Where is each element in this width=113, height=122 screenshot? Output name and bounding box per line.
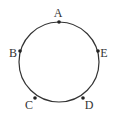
point-B-label: B (9, 46, 17, 60)
circle-diagram: A B C D E (0, 0, 113, 122)
point-E-dot (96, 49, 100, 53)
point-C-dot (33, 96, 37, 100)
point-C: C (25, 96, 37, 112)
point-A-label: A (54, 6, 63, 20)
point-C-label: C (25, 98, 33, 112)
point-D: D (81, 96, 93, 112)
point-A-dot (57, 20, 61, 24)
point-A: A (54, 6, 63, 24)
point-D-label: D (85, 98, 94, 112)
point-B-dot (18, 49, 22, 53)
point-E-label: E (100, 46, 107, 60)
circle (19, 22, 99, 102)
